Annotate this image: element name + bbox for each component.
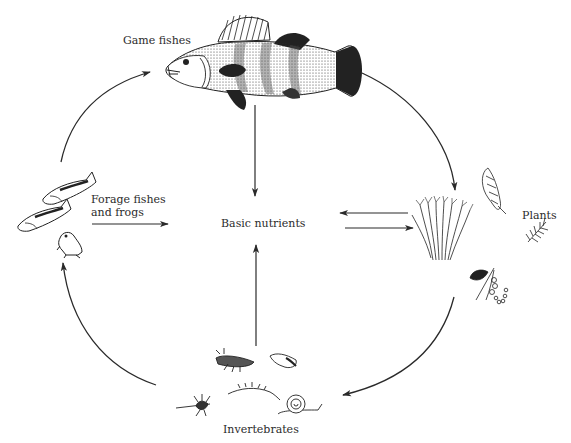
aquatic-plants-icon <box>412 168 548 304</box>
perch-fish-icon <box>166 15 362 110</box>
label-basic-nutrients: Basic nutrients <box>221 217 306 230</box>
label-plants: Plants <box>522 209 557 222</box>
arrow-plants-to-invertebrates <box>343 297 454 395</box>
arrow-invertebrates-to-forage <box>63 263 156 385</box>
invertebrates-icon <box>176 348 322 416</box>
food-web-diagram: Game fishes Forage fishes and frogs Basi… <box>0 0 571 443</box>
forage-fish-frog-icon <box>18 172 96 258</box>
label-game-fishes: Game fishes <box>123 34 191 47</box>
label-forage-line2: and frogs <box>91 206 144 219</box>
arrow-forage-to-game <box>61 72 150 162</box>
label-invertebrates: Invertebrates <box>223 423 299 436</box>
label-forage-line1: Forage fishes <box>91 193 166 206</box>
arrow-game-to-plants <box>362 73 455 190</box>
